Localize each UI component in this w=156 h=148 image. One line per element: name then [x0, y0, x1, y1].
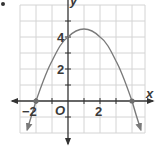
grid	[20, 5, 145, 133]
root-point-left	[33, 98, 38, 103]
y-tick-label-2: 2	[57, 63, 64, 76]
origin-label: O	[55, 104, 65, 117]
x-tick-label-2: 2	[95, 105, 102, 118]
coordinate-plane	[0, 0, 156, 148]
y-tick-label-4: 4	[57, 31, 64, 44]
x-tick-label-neg2: −2	[22, 105, 37, 118]
x-axis-label: x	[146, 87, 153, 100]
y-axis-label: y	[70, 0, 77, 7]
root-point-right	[129, 98, 134, 103]
